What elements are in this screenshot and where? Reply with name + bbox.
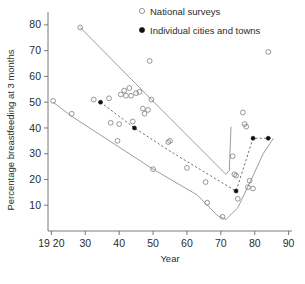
upper-envelope bbox=[80, 27, 231, 174]
data-point-individual-city bbox=[234, 189, 238, 193]
y-tick-label: 70 bbox=[29, 44, 41, 56]
legend-open-circle-icon bbox=[139, 8, 144, 13]
data-point-national-survey bbox=[251, 186, 256, 191]
data-point-national-survey bbox=[91, 97, 96, 102]
lower-envelope bbox=[53, 102, 273, 219]
x-axis-title: Year bbox=[160, 253, 179, 264]
data-points bbox=[51, 25, 271, 219]
y-axis-ticks: 1020304050607080 bbox=[29, 18, 48, 210]
y-tick-label: 20 bbox=[29, 173, 41, 185]
legend-filled-circle-icon bbox=[139, 27, 144, 32]
data-point-individual-city bbox=[251, 136, 255, 140]
legend-label-national-surveys: National surveys bbox=[150, 6, 220, 17]
breastfeeding-scatter-chart: National surveys Individual cities and t… bbox=[0, 0, 305, 284]
y-tick-label: 30 bbox=[29, 147, 41, 159]
middle-trend-dashed bbox=[101, 102, 269, 191]
chart-legend: National surveys Individual cities and t… bbox=[139, 6, 260, 36]
data-point-national-survey bbox=[122, 88, 127, 93]
data-point-national-survey bbox=[146, 108, 151, 113]
x-tick-label: 40 bbox=[113, 237, 125, 249]
data-point-national-survey bbox=[117, 122, 122, 127]
data-point-national-survey bbox=[69, 111, 74, 116]
y-tick-label: 60 bbox=[29, 70, 41, 82]
data-point-national-survey bbox=[140, 106, 145, 111]
chart-axes bbox=[48, 12, 292, 231]
data-point-national-survey bbox=[108, 120, 113, 125]
data-point-national-survey bbox=[203, 180, 208, 185]
data-point-individual-city bbox=[132, 126, 136, 130]
data-point-national-survey bbox=[205, 200, 210, 205]
data-point-national-survey bbox=[266, 50, 271, 55]
data-point-national-survey bbox=[129, 93, 134, 98]
data-point-national-survey bbox=[240, 110, 245, 115]
y-tick-label: 50 bbox=[29, 96, 41, 108]
y-tick-label: 80 bbox=[29, 18, 41, 30]
data-point-national-survey bbox=[185, 165, 190, 170]
y-tick-label: 10 bbox=[29, 199, 41, 211]
y-axis-title: Percentage breastfeeding at 3 months bbox=[5, 49, 16, 210]
data-point-national-survey bbox=[130, 119, 135, 124]
data-point-national-survey bbox=[147, 59, 152, 64]
data-point-national-survey bbox=[107, 96, 112, 101]
x-tick-label: 19 20 bbox=[38, 237, 64, 249]
data-point-individual-city bbox=[266, 136, 270, 140]
x-tick-label: 60 bbox=[181, 237, 193, 249]
data-point-national-survey bbox=[235, 196, 240, 201]
x-tick-label: 50 bbox=[147, 237, 159, 249]
x-tick-label: 90 bbox=[283, 237, 295, 249]
y-tick-label: 40 bbox=[29, 122, 41, 134]
x-tick-label: 80 bbox=[249, 237, 261, 249]
data-point-individual-city bbox=[99, 100, 103, 104]
legend-label-individual-cities: Individual cities and towns bbox=[150, 25, 261, 36]
trend-envelopes bbox=[53, 27, 273, 219]
x-tick-label: 70 bbox=[215, 237, 227, 249]
data-point-national-survey bbox=[115, 138, 120, 143]
chart-container: National surveys Individual cities and t… bbox=[0, 0, 305, 284]
x-axis-ticks: 19 2030405060708090 bbox=[38, 231, 294, 249]
x-tick-label: 30 bbox=[79, 237, 91, 249]
data-point-national-survey bbox=[230, 154, 235, 159]
data-point-national-survey bbox=[124, 93, 129, 98]
data-point-national-survey bbox=[127, 86, 132, 91]
